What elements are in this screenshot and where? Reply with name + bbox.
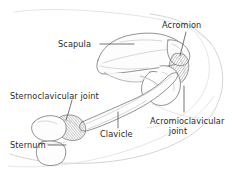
label-clavicle: Clavicle: [100, 129, 133, 139]
anatomy-figure: Scapula Acromion Sternoclavicular joint …: [0, 0, 244, 179]
label-acromioclavicular-joint-line2: joint: [168, 126, 188, 136]
label-scapula: Scapula: [58, 39, 91, 49]
label-sternoclavicular-joint: Sternoclavicular joint: [10, 91, 100, 101]
label-acromion: Acromion: [162, 20, 201, 30]
label-acromioclavicular-joint-line1: Acromioclavicular: [150, 116, 225, 126]
manubrium: [32, 116, 67, 142]
label-sternum: Sternum: [10, 140, 46, 150]
